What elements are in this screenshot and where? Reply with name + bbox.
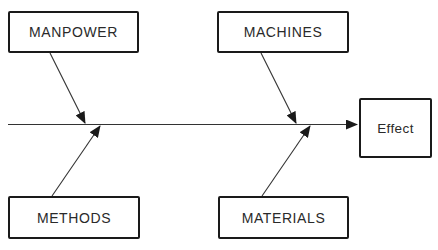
cause-box-methods: METHODS: [8, 196, 140, 239]
cause-box-materials: MATERIALS: [218, 196, 349, 239]
cause-label-materials: MATERIALS: [242, 210, 326, 226]
materials-arrow: [262, 126, 310, 196]
cause-label-machines: MACHINES: [244, 24, 323, 40]
effect-box: Effect: [359, 98, 432, 158]
cause-box-manpower: MANPOWER: [8, 11, 139, 53]
methods-arrow: [52, 126, 100, 196]
cause-label-manpower: MANPOWER: [29, 24, 118, 40]
manpower-arrow: [50, 53, 85, 123]
cause-label-methods: METHODS: [37, 210, 111, 226]
machines-arrow: [261, 53, 296, 123]
effect-label: Effect: [377, 121, 414, 136]
cause-box-machines: MACHINES: [217, 11, 349, 53]
